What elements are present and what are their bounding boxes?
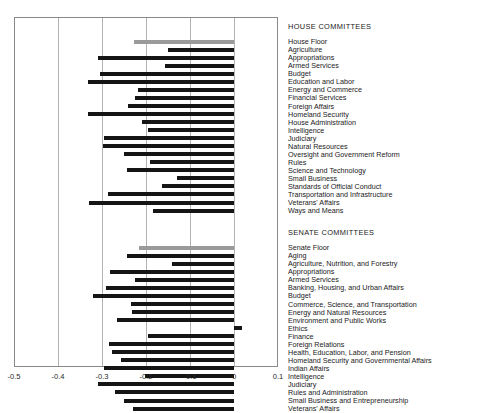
- bar: [153, 209, 234, 213]
- bar: [142, 120, 234, 124]
- group-header-house: HOUSE COMMITTEES: [288, 22, 371, 31]
- bar: [117, 318, 234, 322]
- bar: [88, 112, 234, 116]
- category-label: Ways and Means: [288, 207, 343, 215]
- bar: [138, 88, 234, 92]
- x-axis-tick-label: 0.1: [273, 372, 284, 381]
- bar: [134, 40, 234, 44]
- bar: [98, 382, 234, 386]
- bar: [132, 310, 234, 314]
- x-axis-tick-label: -0.5: [7, 372, 20, 381]
- x-axis-tick-label: -0.1: [183, 372, 196, 381]
- bar: [128, 104, 234, 108]
- bar: [110, 270, 234, 274]
- bar: [103, 144, 234, 148]
- x-axis-tick-label: 0: [232, 372, 236, 381]
- bar: [234, 326, 242, 330]
- bar: [124, 152, 234, 156]
- x-axis-tick-label: -0.3: [95, 372, 108, 381]
- bar: [127, 168, 234, 172]
- bar: [127, 254, 234, 258]
- bar: [139, 246, 234, 250]
- bar: [135, 96, 234, 100]
- bar: [89, 201, 234, 205]
- bar: [124, 399, 234, 403]
- bar: [162, 184, 234, 188]
- bar: [93, 294, 234, 298]
- bar: [135, 278, 234, 282]
- bar: [109, 342, 234, 346]
- bar: [104, 136, 234, 140]
- bar: [106, 286, 234, 290]
- bar: [121, 358, 234, 362]
- bar: [115, 390, 234, 394]
- bar: [177, 176, 234, 180]
- bar: [168, 48, 234, 52]
- bar: [88, 80, 234, 84]
- category-label: Veterans' Affairs: [288, 405, 340, 413]
- bar: [172, 262, 234, 266]
- bars-layer: [14, 17, 278, 367]
- x-axis-tick-label: -0.4: [51, 372, 64, 381]
- bar: [148, 128, 234, 132]
- bar: [148, 334, 234, 338]
- bar: [104, 366, 234, 370]
- bar: [112, 350, 234, 354]
- bar: [100, 72, 234, 76]
- bar: [165, 64, 234, 68]
- group-header-senate: SENATE COMMITTEES: [288, 228, 374, 237]
- bar: [108, 192, 234, 196]
- bar: [98, 56, 234, 60]
- bar: [133, 407, 234, 411]
- bar: [131, 302, 234, 306]
- bar: [150, 160, 234, 164]
- x-axis-tick-label: -0.2: [139, 372, 152, 381]
